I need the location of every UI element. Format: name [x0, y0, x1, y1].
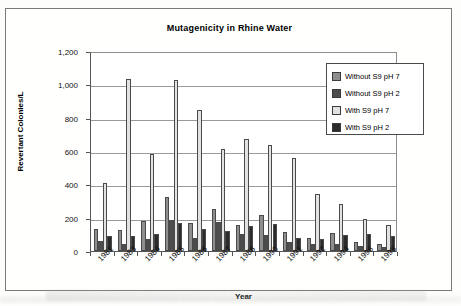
- bar: [126, 79, 130, 252]
- x-axis-tick: [373, 252, 374, 256]
- bar-group: [209, 53, 233, 251]
- legend-label: Without S9 pH 7: [345, 72, 400, 81]
- legend-swatch-icon: [332, 72, 341, 81]
- legend-label: Without S9 pH 2: [345, 89, 400, 98]
- legend-label: With S9 pH 7: [345, 106, 389, 115]
- bar-group: [91, 53, 115, 251]
- bar-group: [185, 53, 209, 251]
- y-axis-tick-label: 200: [65, 214, 78, 223]
- legend-item: Without S9 pH 7: [332, 68, 419, 85]
- x-axis-tick: [303, 252, 304, 256]
- y-axis-tick-label: 400: [65, 181, 78, 190]
- bar-group: [256, 53, 280, 251]
- x-axis-tick: [255, 252, 256, 256]
- y-axis-title: Revertant Colonies/L: [16, 52, 25, 212]
- figure-frame: Mutagenicity in Rhine Water 020040060080…: [5, 8, 452, 291]
- x-axis-tick: [326, 252, 327, 256]
- bar-group: [138, 53, 162, 251]
- x-axis-tick: [350, 252, 351, 256]
- x-axis-tick: [114, 252, 115, 256]
- bar-group: [280, 53, 304, 251]
- bar-group: [162, 53, 186, 251]
- chart-legend: Without S9 pH 7Without S9 pH 2With S9 pH…: [326, 63, 424, 135]
- bar-group: [304, 53, 328, 251]
- x-axis-tick: [161, 252, 162, 256]
- chart-title: Mutagenicity in Rhine Water: [6, 23, 453, 33]
- x-axis-tick: [279, 252, 280, 256]
- x-axis-tick: [90, 252, 91, 256]
- legend-swatch-icon: [332, 89, 341, 98]
- legend-swatch-icon: [332, 123, 341, 132]
- x-axis-tick: [232, 252, 233, 256]
- y-axis-tick-label: 1,200: [58, 48, 78, 57]
- y-axis-tick-label: 600: [65, 148, 78, 157]
- x-axis-tick: [397, 252, 398, 256]
- scan-artifact-bottom: [0, 296, 461, 303]
- x-axis-tick: [208, 252, 209, 256]
- legend-swatch-icon: [332, 106, 341, 115]
- legend-item: With S9 pH 2: [332, 119, 419, 136]
- x-axis-tick: [137, 252, 138, 256]
- y-axis-tick-label: 0: [74, 248, 78, 257]
- y-axis-tick-label: 1,000: [58, 81, 78, 90]
- page-root: Mutagenicity in Rhine Water 020040060080…: [0, 0, 461, 306]
- legend-label: With S9 pH 2: [345, 123, 389, 132]
- bar-group: [115, 53, 139, 251]
- y-axis-tick-label: 800: [65, 114, 78, 123]
- legend-item: Without S9 pH 2: [332, 85, 419, 102]
- bar-group: [233, 53, 257, 251]
- legend-item: With S9 pH 7: [332, 102, 419, 119]
- x-axis-tick: [184, 252, 185, 256]
